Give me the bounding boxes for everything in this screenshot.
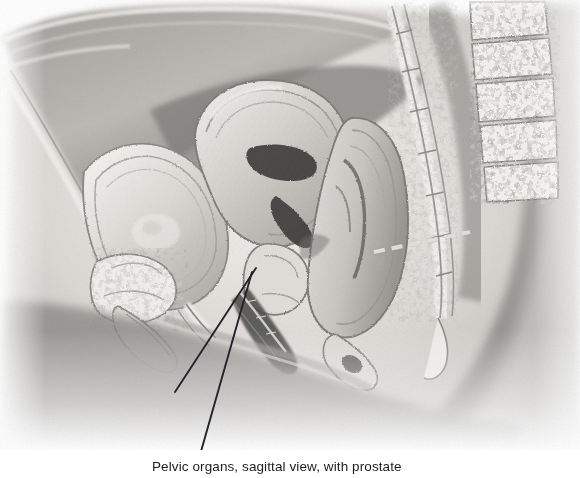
- figure-page: Pelvic organs, sagittal view, with prost…: [0, 0, 580, 478]
- bottom-fade: [0, 330, 580, 450]
- right-fade: [534, 0, 580, 450]
- figure-caption-text: Pelvic organs, sagittal view, with prost…: [152, 459, 402, 474]
- illustration-canvas: [0, 0, 580, 450]
- left-fade: [0, 0, 46, 450]
- pelvis-sagittal-illustration: [0, 0, 580, 450]
- rectum: [304, 114, 416, 344]
- top-fade: [0, 0, 580, 14]
- figure-caption: Pelvic organs, sagittal view, with prost…: [0, 452, 580, 478]
